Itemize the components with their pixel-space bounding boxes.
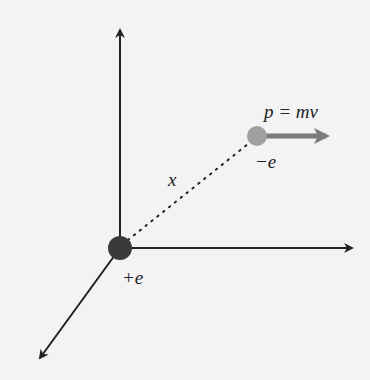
atom-diagram: p = mv −e +e x — [0, 0, 370, 380]
distance-line — [128, 144, 248, 240]
electron-charge-label: −e — [255, 151, 276, 172]
momentum-label: p = mv — [262, 101, 319, 122]
proton — [108, 236, 132, 260]
electron — [247, 126, 267, 146]
depth-axis — [40, 248, 120, 358]
distance-label: x — [167, 169, 177, 190]
proton-charge-label: +e — [122, 267, 143, 288]
